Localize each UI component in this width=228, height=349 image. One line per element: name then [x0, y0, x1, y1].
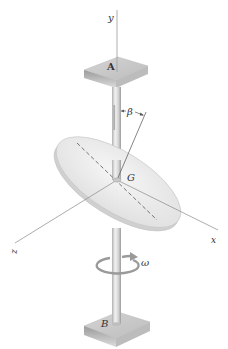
bearing-b-label: B — [100, 318, 108, 329]
center-of-mass-label: G — [127, 172, 135, 183]
z-axis-label: z — [9, 249, 19, 255]
beta-angle-label: β — [126, 106, 133, 117]
tilted-disk-diagram: y A x z G β ω — [0, 0, 228, 349]
hub-point-g — [113, 178, 121, 182]
bearing-plate-a — [84, 57, 148, 88]
omega-label: ω — [141, 257, 149, 268]
bearing-a-label: A — [106, 61, 115, 72]
x-axis-label: x — [211, 235, 216, 245]
y-axis-label: y — [107, 12, 114, 23]
bearing-plate-b — [84, 300, 150, 347]
